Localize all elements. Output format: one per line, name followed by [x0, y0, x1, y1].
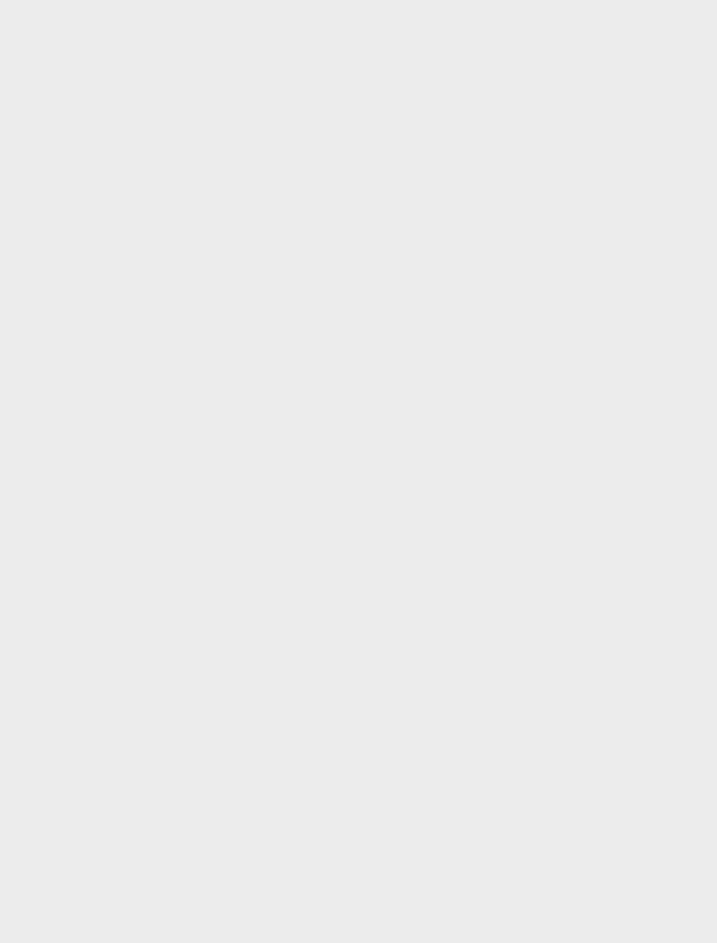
legend-item — [129, 634, 143, 644]
legend-item — [24, 285, 33, 295]
legend-item — [129, 644, 143, 654]
legend-item — [24, 264, 33, 274]
legend-item — [129, 614, 143, 624]
solar-system-legend — [24, 254, 33, 305]
legend-item — [24, 254, 33, 264]
legend-item — [129, 603, 143, 613]
galaxy-legend — [24, 885, 33, 906]
legend-item — [24, 275, 33, 285]
legend-item — [24, 593, 129, 603]
nearby-stars-legend — [24, 593, 143, 655]
legend-item — [24, 295, 33, 305]
legend-item — [129, 593, 143, 603]
legend-item — [24, 644, 129, 654]
legend-item — [24, 885, 33, 895]
legend-item — [24, 614, 129, 624]
legend-item — [24, 603, 129, 613]
legend-item — [129, 624, 143, 634]
legend-item — [24, 624, 129, 634]
legend-item — [24, 634, 129, 644]
legend-item — [24, 895, 33, 905]
cosmic-scale-diagram — [0, 0, 717, 943]
diagram-canvas — [0, 0, 717, 943]
